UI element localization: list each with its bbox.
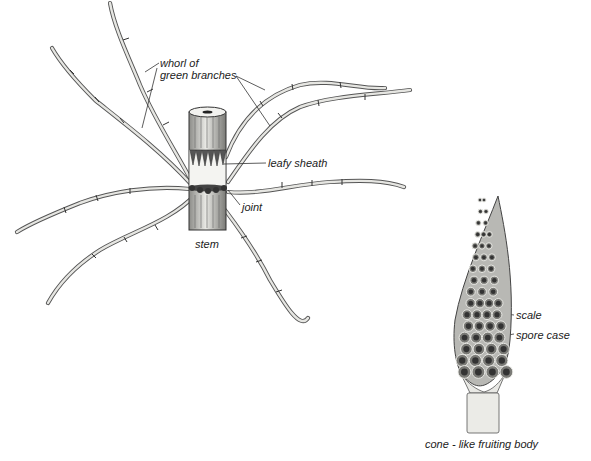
spore-case-dot <box>474 312 479 317</box>
label-scale: scale <box>516 309 542 321</box>
spore-case-dot <box>459 357 465 363</box>
spore-case-dot <box>487 323 493 329</box>
spore-case-dot <box>469 289 474 294</box>
label-whorl-of-green-branches: whorl of green branches <box>160 57 236 81</box>
spore-case-dot <box>487 244 490 247</box>
spore-case-dot <box>480 244 483 247</box>
spore-case-dot <box>484 222 487 225</box>
horsetail-illustration <box>0 0 591 461</box>
spore-case-dot <box>501 346 507 352</box>
stem-hollow-center <box>203 110 213 113</box>
spore-case-dot <box>487 301 492 306</box>
label-joint: joint <box>242 201 262 213</box>
spore-case-dot <box>485 335 491 341</box>
spore-case-dot <box>489 369 496 376</box>
cone-stalk <box>467 393 499 433</box>
spore-case-dot <box>499 357 505 363</box>
spore-case-dot <box>471 267 475 271</box>
spore-case-dot <box>464 312 469 317</box>
spore-case-dot <box>473 244 476 247</box>
spore-case-dot <box>476 233 479 236</box>
spore-case-dot <box>496 301 501 306</box>
spore-case-dot <box>461 369 468 376</box>
label-spore-case: spore case <box>516 329 570 341</box>
spore-case-dot <box>472 357 478 363</box>
spore-case-dot <box>482 278 486 282</box>
spore-case-dot <box>479 210 482 213</box>
spore-case-dot <box>463 346 469 352</box>
leafy-sheath <box>190 150 227 186</box>
spore-case-dot <box>480 267 484 271</box>
spore-case-dot <box>485 357 491 363</box>
spore-case-dot <box>483 199 485 201</box>
label-cone-caption: cone - like fruiting body <box>425 438 538 450</box>
spore-case-dot <box>488 233 491 236</box>
spore-case-dot <box>477 323 483 329</box>
stem <box>189 107 228 230</box>
spore-case-dot <box>498 323 504 329</box>
spore-case-dot <box>473 335 479 341</box>
label-whorl-line2: green branches <box>160 69 236 81</box>
spore-case-dot <box>462 335 468 341</box>
spore-case-dot <box>477 301 482 306</box>
spore-case-dot <box>490 255 494 259</box>
spore-case-dot <box>484 312 489 317</box>
spore-case-dot <box>482 233 485 236</box>
spore-case-dot <box>477 222 480 225</box>
label-whorl-line1: whorl of <box>160 57 236 69</box>
spore-case-dot <box>482 255 486 259</box>
spore-case-dot <box>466 323 472 329</box>
label-stem: stem <box>195 238 219 250</box>
spore-case-dot <box>475 369 482 376</box>
spore-case-dot <box>479 199 481 201</box>
spore-case-dot <box>497 335 503 341</box>
cone-fruiting-body <box>454 196 513 433</box>
spore-case-dot <box>472 278 476 282</box>
spore-case-dot <box>488 346 494 352</box>
spore-case-dot <box>468 301 473 306</box>
spore-case-dot <box>489 267 493 271</box>
spore-case-dot <box>494 312 499 317</box>
branch-right <box>228 181 404 193</box>
spore-case-dot <box>491 289 496 294</box>
spore-case-dot <box>476 346 482 352</box>
spore-case-dot <box>474 255 478 259</box>
spore-case-dot <box>485 210 488 213</box>
label-leafy-sheath: leafy sheath <box>268 157 327 169</box>
spore-case-dot <box>492 278 496 282</box>
spore-case-dot <box>480 289 485 294</box>
branch-left <box>17 188 190 232</box>
branch-lower-left <box>48 194 196 303</box>
spore-case-dot <box>503 369 510 376</box>
